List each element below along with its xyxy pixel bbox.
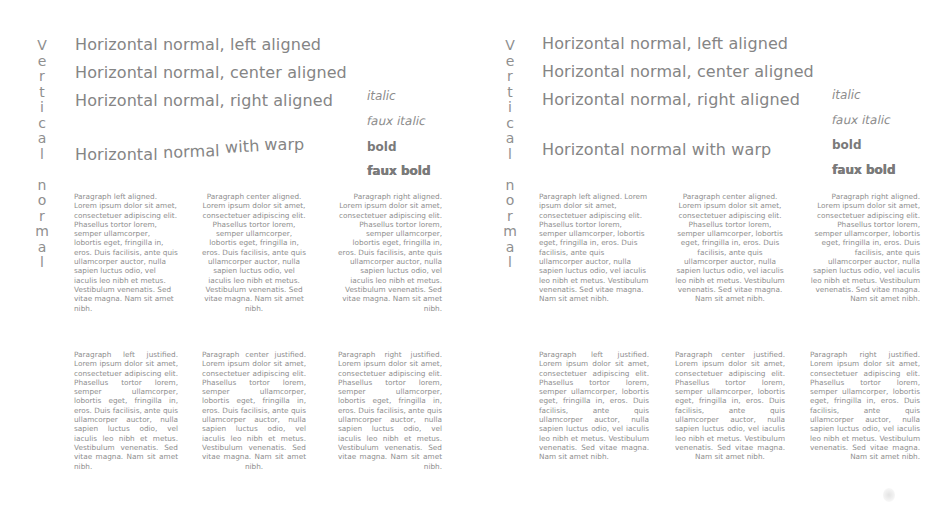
faux-italic-label: faux italic xyxy=(367,114,426,128)
vertical-char: e xyxy=(38,54,47,70)
paragraph-right-justified: Paragraph right justified. Lorem ipsum d… xyxy=(338,350,442,471)
vertical-char: r xyxy=(39,69,45,85)
faux-italic-text: faux italic xyxy=(366,114,428,128)
vertical-char: l xyxy=(508,255,512,271)
scan-artifact xyxy=(883,488,895,502)
paragraph-right-aligned: Paragraph right aligned. Lorem ipsum dol… xyxy=(338,192,442,313)
vertical-char: t xyxy=(39,85,45,101)
vertical-char: c xyxy=(506,116,514,132)
paragraph-right-justified: Paragraph right justified. Lorem ipsum d… xyxy=(810,350,920,462)
heading-center-aligned: Horizontal normal, center aligned xyxy=(75,63,347,82)
vertical-char: l xyxy=(40,255,44,271)
vertical-char: e xyxy=(506,54,515,70)
faux-italic-text: faux italic xyxy=(831,113,893,127)
vertical-char: V xyxy=(505,38,515,54)
vertical-char: i xyxy=(40,100,44,116)
warp-word: with xyxy=(692,140,726,159)
faux-bold-label: faux bold xyxy=(832,163,895,177)
paragraph-left-justified: Paragraph left justified. Lorem ipsum do… xyxy=(74,350,178,471)
vertical-char: l xyxy=(40,147,44,163)
vertical-char: a xyxy=(38,131,47,147)
vertical-char: t xyxy=(507,85,513,101)
warp-word: warp xyxy=(264,135,304,154)
bold-label: bold xyxy=(832,138,862,152)
vertical-char: r xyxy=(507,69,513,85)
vertical-char: n xyxy=(38,178,47,194)
warp-word: Horizontal xyxy=(75,145,158,164)
vertical-char: n xyxy=(506,178,515,194)
vertical-char: r xyxy=(507,209,513,225)
vertical-char: m xyxy=(503,224,517,240)
heading-warp: Horizontal normal with warp xyxy=(542,140,771,159)
heading-left-aligned: Horizontal normal, left aligned xyxy=(75,35,321,54)
paragraph-left-aligned: Paragraph left aligned. Lorem ipsum dolo… xyxy=(539,192,649,304)
vertical-char: o xyxy=(38,193,47,209)
paragraph-center-aligned: Paragraph center aligned. Lorem ipsum do… xyxy=(202,192,306,313)
vertical-text: V e r t i c a l n o r m a l xyxy=(503,38,517,271)
paragraph-right-aligned: Paragraph right aligned. Lorem ipsum dol… xyxy=(810,192,920,304)
paragraph-center-aligned: Paragraph center aligned. Lorem ipsum do… xyxy=(675,192,785,304)
vertical-char: o xyxy=(506,193,515,209)
heading-right-aligned: Horizontal normal, right aligned xyxy=(542,90,800,109)
paragraph-left-aligned: Paragraph left aligned. Lorem ipsum dolo… xyxy=(74,192,178,313)
paragraph-center-justified: Paragraph center justified. Lorem ipsum … xyxy=(202,350,306,471)
italic-label: italic xyxy=(832,88,861,102)
vertical-char: i xyxy=(508,100,512,116)
warp-word: normal xyxy=(630,140,687,159)
faux-bold-label: faux bold xyxy=(367,164,430,178)
vertical-char: a xyxy=(38,240,47,256)
warp-word: with xyxy=(224,136,259,157)
warp-word: Horizontal xyxy=(542,140,625,159)
right-text-sample-panel: V e r t i c a l n o r m a l Horizontal n… xyxy=(476,0,952,521)
bold-label: bold xyxy=(367,140,397,154)
italic-label: italic xyxy=(367,89,396,103)
vertical-char: m xyxy=(35,224,49,240)
vertical-char: a xyxy=(506,131,515,147)
vertical-text: V e r t i c a l n o r m a l xyxy=(35,38,49,271)
heading-left-aligned: Horizontal normal, left aligned xyxy=(542,34,788,53)
vertical-char: V xyxy=(37,38,47,54)
heading-center-aligned: Horizontal normal, center aligned xyxy=(542,62,814,81)
warp-word: warp xyxy=(731,140,771,159)
warp-word: normal xyxy=(163,141,220,162)
heading-right-aligned: Horizontal normal, right aligned xyxy=(75,91,333,110)
paragraph-left-justified: Paragraph left justified. Lorem ipsum do… xyxy=(539,350,649,462)
vertical-char: r xyxy=(39,209,45,225)
heading-warp: Horizontal normal with warp xyxy=(75,140,304,159)
left-text-sample-panel: V e r t i c a l n o r m a l Horizontal n… xyxy=(0,0,476,521)
vertical-char: a xyxy=(506,240,515,256)
paragraph-center-justified: Paragraph center justified. Lorem ipsum … xyxy=(675,350,785,462)
faux-italic-label: faux italic xyxy=(832,113,891,127)
vertical-char: l xyxy=(508,147,512,163)
vertical-char: c xyxy=(38,116,46,132)
